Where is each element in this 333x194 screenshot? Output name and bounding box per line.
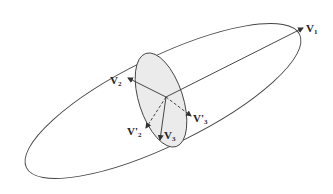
vector-label-subscript: 2 — [138, 131, 142, 139]
vector-label-subscript: 1 — [314, 28, 318, 36]
vector-label-subscript: 3 — [204, 118, 208, 126]
ellipsoid-eigenvector-diagram: V1V2V3V'2V'3 — [0, 0, 333, 194]
vector-label-subscript: 3 — [172, 135, 176, 143]
vector-label-text: V — [164, 129, 172, 141]
vector-label-subscript: 2 — [118, 80, 122, 88]
vector-arrow-v1 — [166, 28, 303, 97]
vector-label-v3p: V'3 — [193, 113, 208, 126]
vector-label-text: V' — [127, 125, 138, 137]
vector-label-v3: V3 — [164, 130, 175, 143]
vector-label-text: V' — [193, 112, 204, 124]
vector-label-v1: V1 — [306, 23, 317, 36]
vector-label-text: V — [110, 74, 118, 86]
diagram-canvas — [0, 0, 333, 194]
vector-label-v2p: V'2 — [127, 126, 142, 139]
vector-label-text: V — [306, 22, 314, 34]
vector-label-v2: V2 — [110, 75, 121, 88]
